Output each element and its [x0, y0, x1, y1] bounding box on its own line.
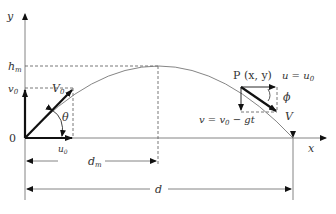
phi-label: ϕ [283, 91, 291, 104]
u0-label: u0 [58, 144, 68, 155]
x-axis-label: x [308, 142, 315, 155]
V-label: V [285, 110, 294, 123]
origin-label: 0 [9, 132, 16, 145]
h-max-label: hm [8, 60, 22, 74]
point-P-label: P (x, y) [233, 69, 272, 82]
projectile-diagram: y x 0 hm v0 V0 θ u0 P (x, y) u = u0 ϕ v … [0, 0, 336, 214]
d-label: d [155, 183, 162, 196]
phi-angle-arc [268, 89, 270, 101]
d-max-label: dm [88, 155, 102, 169]
V-arrow [241, 87, 276, 111]
u-equals-u0-label: u = u0 [282, 70, 315, 83]
v0-axis-label: v0 [8, 83, 19, 96]
theta-label: θ [62, 111, 69, 124]
v-equals-label: v = v0 − gt [199, 114, 256, 127]
V0-label: V0 [52, 82, 65, 96]
theta-angle-arc [52, 110, 63, 136]
y-axis-label: y [6, 10, 14, 23]
